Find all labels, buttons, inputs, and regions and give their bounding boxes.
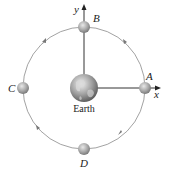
arrow-icon [123,39,127,44]
satellite-c [17,82,29,94]
satellite-d [78,143,90,155]
arrow-icon [118,130,122,135]
y-axis-label: y [73,3,79,15]
earth-icon [70,74,98,102]
point-label-b: B [93,12,100,24]
point-label-d: D [79,157,88,169]
earth-label: Earth [73,103,95,114]
orbit-diagram: A B C D x y Earth [0,0,169,175]
satellite-b [78,21,90,33]
point-label-a: A [145,70,153,82]
arrow-icon [42,38,46,43]
x-axis-label: x [153,88,159,100]
point-label-c: C [8,82,16,94]
satellite-a [139,82,151,94]
y-axis-arrow-icon [82,4,87,10]
